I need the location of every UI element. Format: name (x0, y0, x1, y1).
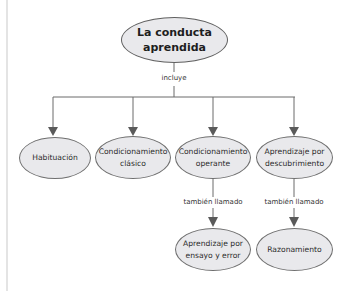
arrowhead-icon (289, 217, 299, 227)
root-node: La conducta aprendida (121, 17, 228, 63)
node-discovery-learning: Aprendizaje por descubrimiento (256, 136, 333, 179)
node-label: Razonamiento (267, 244, 321, 256)
node-operant-conditioning: Condicionamiento operante (175, 136, 251, 179)
arrowhead-icon (48, 127, 58, 136)
node-label: Aprendizaje por descubrimiento (265, 146, 325, 170)
node-label: Condicionamiento operante (179, 146, 248, 170)
node-reasoning: Razonamiento (256, 228, 333, 271)
arrowhead-icon (289, 127, 299, 136)
node-habituation: Habituación (19, 137, 91, 179)
node-trial-and-error: Aprendizaje por ensayo y error (175, 228, 251, 271)
edge-label-also-called: también llamado (263, 198, 324, 207)
arrowhead-icon (128, 127, 138, 136)
arrowhead-icon (208, 217, 218, 227)
node-classical-conditioning: Condicionamiento clásico (95, 136, 171, 179)
node-label: Aprendizaje por ensayo y error (183, 238, 243, 262)
arrowhead-icon (208, 127, 218, 136)
root-node-label: La conducta aprendida (137, 25, 212, 55)
node-label: Condicionamiento clásico (99, 146, 168, 170)
node-label: Habituación (32, 152, 77, 164)
edge-label-also-called: también llamado (182, 198, 243, 207)
edge-label-includes: incluye (160, 74, 187, 83)
